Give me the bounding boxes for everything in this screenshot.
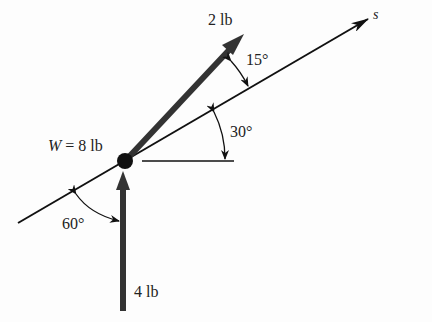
- weight-symbol: W: [48, 137, 61, 154]
- weight-equals: =: [65, 137, 78, 154]
- angle-label-30: 30°: [230, 124, 252, 140]
- force-label-2lb: 2 lb: [208, 12, 232, 28]
- diagram-canvas: [0, 0, 432, 322]
- force-arrow-2lb: [127, 34, 244, 159]
- free-body-diagram: s 2 lb 15° 30° 60° W = 8 lb 4 lb: [0, 0, 432, 322]
- force-arrow-4lb: [116, 171, 130, 311]
- angle-arc-30: [214, 112, 225, 159]
- axis-label-s: s: [373, 8, 378, 22]
- force-label-4lb: 4 lb: [134, 284, 158, 300]
- s-axis-line: [18, 19, 368, 223]
- angle-label-15: 15°: [246, 52, 268, 68]
- weight-label: W = 8 lb: [48, 138, 103, 154]
- angle-label-60: 60°: [62, 216, 84, 232]
- particle-body: [117, 153, 133, 169]
- weight-value: 8 lb: [78, 137, 102, 154]
